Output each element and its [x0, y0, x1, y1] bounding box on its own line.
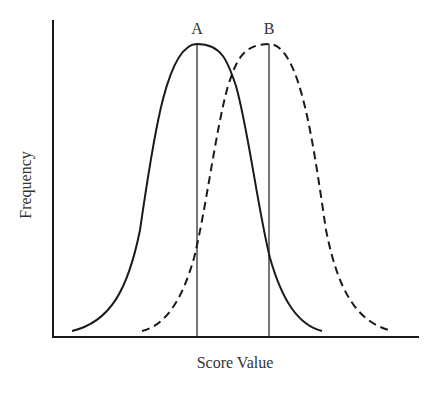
x-axis-label: Score Value — [197, 354, 274, 371]
peak-label-b: B — [264, 20, 275, 37]
chart: A B Score Value Frequency — [0, 0, 443, 395]
peak-label-a: A — [191, 20, 203, 37]
curve-b — [142, 44, 392, 331]
y-axis-label: Frequency — [17, 151, 35, 219]
